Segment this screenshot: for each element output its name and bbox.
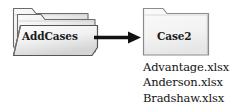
node-label-case2: Case2 <box>157 30 192 42</box>
node-label-addcases: AddCases <box>22 30 78 42</box>
list-item: Bradshaw.xlsx <box>143 91 239 106</box>
file-list: Advantage.xlsx Anderson.xlsx Bradshaw.xl… <box>143 60 239 106</box>
list-item: Advantage.xlsx <box>143 60 239 75</box>
flow-diagram: AddCases Case2 Advantage.xlsx Anderson.x… <box>0 0 240 111</box>
list-item: Anderson.xlsx <box>143 75 239 90</box>
arrow-addcases-to-case2 <box>94 32 141 44</box>
